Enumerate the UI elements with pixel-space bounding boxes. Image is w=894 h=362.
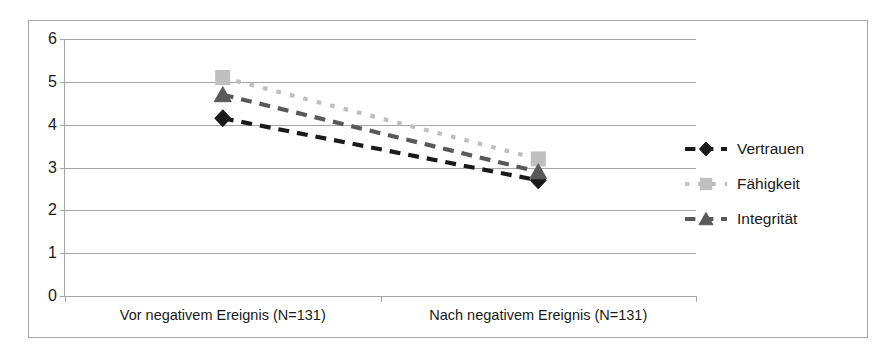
chart-legend: Vertrauen Fähigkeit Integrität — [684, 131, 859, 236]
x-tick — [65, 296, 66, 302]
x-tick-label: Nach negativem Ereignis (N=131) — [429, 307, 647, 323]
chart-root: 6 5 4 3 2 1 0 — [0, 0, 894, 362]
y-axis-labels: 6 5 4 3 2 1 0 — [29, 39, 57, 296]
y-tick-label: 6 — [48, 30, 57, 48]
x-axis-labels: Vor negativem Ereignis (N=131) Nach nega… — [65, 39, 696, 296]
legend-marker-diamond-icon — [684, 140, 728, 158]
y-tick-label: 2 — [48, 201, 57, 219]
x-tick — [381, 296, 382, 302]
x-tick-label: Vor negativem Ereignis (N=131) — [120, 307, 326, 323]
legend-marker-triangle-icon — [684, 210, 728, 228]
legend-item-faehigkeit[interactable]: Fähigkeit — [684, 166, 859, 201]
legend-item-label: Fähigkeit — [737, 175, 800, 193]
legend-item-label: Vertrauen — [737, 140, 804, 158]
legend-item-integritaet[interactable]: Integrität — [684, 201, 859, 236]
chart-frame: 6 5 4 3 2 1 0 — [28, 20, 868, 338]
y-tick-label: 0 — [48, 287, 57, 305]
y-tick-label: 1 — [48, 244, 57, 262]
y-tick-label: 4 — [48, 116, 57, 134]
y-tick-label: 5 — [48, 73, 57, 91]
legend-item-label: Integrität — [737, 210, 797, 228]
legend-marker-square-icon — [684, 175, 728, 193]
x-tick — [696, 296, 697, 302]
y-tick-label: 3 — [48, 159, 57, 177]
legend-item-vertrauen[interactable]: Vertrauen — [684, 131, 859, 166]
